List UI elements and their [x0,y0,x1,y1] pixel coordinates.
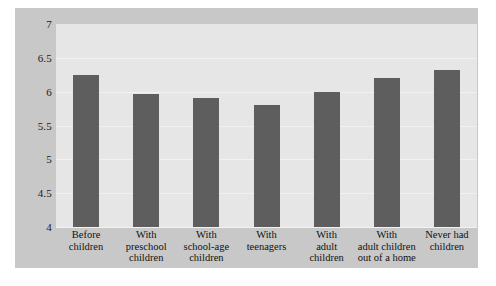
x-axis-category-line: Never had [417,229,477,241]
bar [434,70,460,227]
x-axis-category-line: With [236,229,296,241]
x-axis-category-line: preschool [116,241,176,253]
x-axis-category-line: adult [297,241,357,253]
chart-figure: 44.555.566.57 BeforechildrenWithpreschoo… [15,8,478,268]
y-axis-tick-label: 4 [46,221,52,233]
x-axis-category-label: Withadult childrenout of a home [357,229,417,264]
x-axis-category-line: With [116,229,176,241]
x-axis-category-label: Never hadchildren [417,229,477,252]
x-axis-category-line: out of a home [357,252,417,264]
x-axis-category-line: children [176,252,236,264]
x-axis-category-line: school-age [176,241,236,253]
x-axis-category-line: With [176,229,236,241]
bar [314,92,340,227]
bar [254,105,280,227]
x-axis-category-line: teenagers [236,241,296,253]
y-axis-tick-label: 6.5 [38,52,52,64]
x-axis-category-label: Withteenagers [236,229,296,252]
x-axis-category-line: With [357,229,417,241]
bar [193,98,219,227]
x-axis-category-line: children [297,252,357,264]
y-axis-tick-label: 6 [46,86,52,98]
x-axis-category-label: Withadultchildren [297,229,357,264]
x-axis: BeforechildrenWithpreschoolchildrenWiths… [56,227,477,268]
bar [133,94,159,227]
bar-series [56,24,477,227]
y-axis-tick-label: 5.5 [38,120,52,132]
x-axis-category-label: Withpreschoolchildren [116,229,176,264]
plot-area [56,24,477,227]
y-axis-tick-label: 4.5 [38,187,52,199]
y-axis-tick-label: 5 [46,153,52,165]
x-axis-category-line: adult children [357,241,417,253]
bar [73,75,99,227]
y-axis-tick-label: 7 [46,18,52,30]
bar [374,78,400,227]
x-axis-category-label: Withschool-agechildren [176,229,236,264]
x-axis-category-line: With [297,229,357,241]
x-axis-category-line: children [417,241,477,253]
x-axis-category-label: Beforechildren [56,229,116,252]
x-axis-category-line: Before [56,229,116,241]
x-axis-category-line: children [56,241,116,253]
y-axis: 44.555.566.57 [15,8,56,268]
x-axis-category-line: children [116,252,176,264]
